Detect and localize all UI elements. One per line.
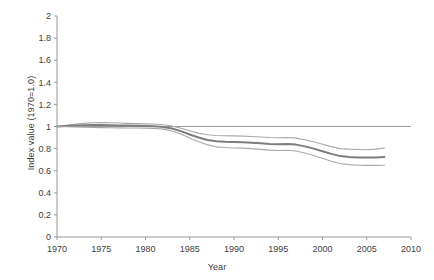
y-tick-label: 1 [46, 122, 51, 132]
x-tick-label: 2000 [312, 244, 332, 254]
y-axis-ticks: 00.20.40.60.811.21.41.61.82 [38, 11, 57, 242]
x-axis-title: Year [0, 262, 434, 272]
x-tick-label: 1970 [47, 244, 67, 254]
y-tick-label: 0.8 [38, 144, 51, 154]
y-tick-label: 0.6 [38, 166, 51, 176]
x-axis-ticks: 197019751980198519901995200020052010 [47, 237, 421, 254]
series-line [57, 127, 384, 166]
series-line [57, 125, 384, 157]
x-tick-label: 1985 [180, 244, 200, 254]
y-tick-label: 1.8 [38, 33, 51, 43]
y-tick-label: 2 [46, 11, 51, 21]
y-tick-label: 0.2 [38, 210, 51, 220]
x-tick-label: 1980 [135, 244, 155, 254]
x-tick-label: 1975 [91, 244, 111, 254]
y-axis-title: Index value (1970=1.0) [26, 43, 36, 203]
y-tick-label: 0.4 [38, 188, 51, 198]
y-tick-label: 0 [46, 232, 51, 242]
x-tick-label: 1990 [224, 244, 244, 254]
x-tick-label: 2010 [401, 244, 421, 254]
x-tick-label: 2005 [357, 244, 377, 254]
line-chart-svg: 00.20.40.60.811.21.41.61.82 197019751980… [0, 0, 434, 280]
data-series-group [57, 123, 384, 166]
y-tick-label: 1.6 [38, 55, 51, 65]
chart-container: 00.20.40.60.811.21.41.61.82 197019751980… [0, 0, 434, 280]
y-tick-label: 1.2 [38, 100, 51, 110]
y-tick-label: 1.4 [38, 78, 51, 88]
x-tick-label: 1995 [268, 244, 288, 254]
